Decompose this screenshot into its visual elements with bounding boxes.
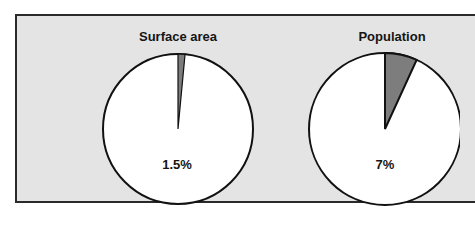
percentage-label-population: 7%	[376, 157, 395, 172]
pie-population	[309, 53, 460, 205]
percentage-label-surface-area: 1.5%	[162, 157, 192, 172]
chart-title-surface-area: Surface area	[139, 29, 217, 44]
pie-surface-area	[103, 54, 253, 204]
chart-title-population: Population	[358, 29, 425, 44]
